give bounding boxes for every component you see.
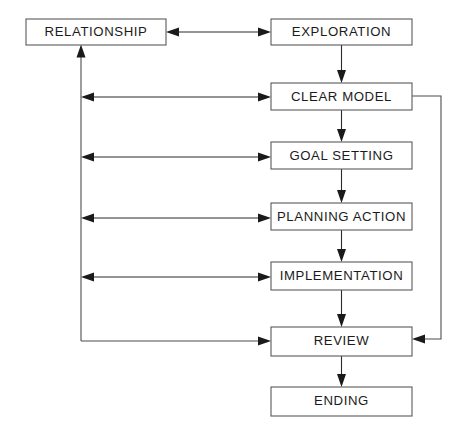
node-label-goal-setting: GOAL SETTING bbox=[289, 148, 393, 163]
node-goal-setting[interactable]: GOAL SETTING bbox=[271, 142, 412, 169]
node-review[interactable]: REVIEW bbox=[271, 327, 412, 356]
edge-goal-setting-planning-action bbox=[337, 169, 346, 203]
edge-clear-model-spine bbox=[81, 93, 271, 102]
node-exploration[interactable]: EXPLORATION bbox=[271, 19, 412, 45]
flowchart-canvas: RELATIONSHIP EXPLORATION CLEAR MODEL GOA… bbox=[0, 0, 466, 431]
node-planning-action[interactable]: PLANNING ACTION bbox=[271, 203, 412, 230]
edge-goal-setting-spine bbox=[81, 153, 271, 162]
edge-left-spine bbox=[77, 45, 86, 342]
node-label-review: REVIEW bbox=[314, 333, 370, 348]
node-relationship[interactable]: RELATIONSHIP bbox=[26, 19, 166, 45]
node-label-exploration: EXPLORATION bbox=[292, 24, 391, 39]
edge-review-feedback-loop bbox=[412, 96, 441, 344]
edge-implementation-spine bbox=[81, 273, 271, 282]
node-label-relationship: RELATIONSHIP bbox=[45, 24, 148, 39]
node-ending[interactable]: ENDING bbox=[271, 387, 412, 416]
edge-relationship-exploration bbox=[166, 28, 271, 37]
edge-implementation-review bbox=[337, 290, 346, 327]
edge-spine-to-review bbox=[81, 337, 271, 346]
edge-review-ending bbox=[337, 356, 346, 387]
node-label-ending: ENDING bbox=[314, 393, 369, 408]
flowchart-svg: RELATIONSHIP EXPLORATION CLEAR MODEL GOA… bbox=[0, 0, 466, 431]
node-clear-model[interactable]: CLEAR MODEL bbox=[271, 83, 412, 110]
edge-exploration-clear-model bbox=[337, 45, 346, 83]
node-implementation[interactable]: IMPLEMENTATION bbox=[271, 262, 412, 290]
node-label-implementation: IMPLEMENTATION bbox=[280, 268, 404, 283]
edge-planning-action-spine bbox=[81, 214, 271, 223]
node-label-planning-action: PLANNING ACTION bbox=[277, 209, 406, 224]
edge-planning-action-implementation bbox=[337, 230, 346, 262]
edge-clear-model-goal-setting bbox=[337, 110, 346, 142]
node-label-clear-model: CLEAR MODEL bbox=[291, 89, 392, 104]
